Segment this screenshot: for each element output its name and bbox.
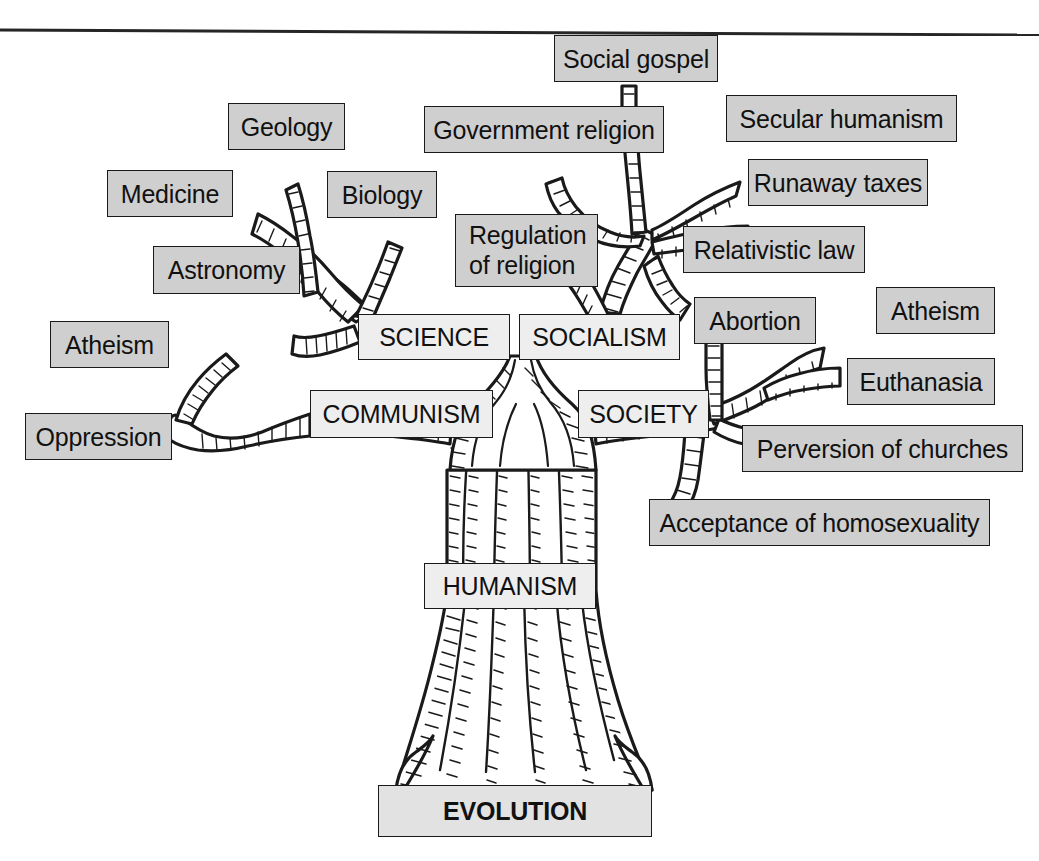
root-label-evolution[interactable]: EVOLUTION bbox=[378, 785, 652, 837]
leaf-label-secular-humanism[interactable]: Secular humanism bbox=[726, 95, 957, 142]
leaf-label-acceptance-of-homosexuality[interactable]: Acceptance of homosexuality bbox=[649, 499, 990, 546]
leaf-label-government-religion[interactable]: Government religion bbox=[424, 106, 664, 153]
branch-label-communism[interactable]: COMMUNISM bbox=[310, 390, 493, 438]
figure-canvas: Geology Medicine Biology Astronomy Socia… bbox=[0, 0, 1039, 861]
leaf-label-regulation-of-religion[interactable]: Regulation of religion bbox=[455, 214, 598, 287]
leaf-label-medicine[interactable]: Medicine bbox=[107, 170, 233, 217]
leaf-label-astronomy[interactable]: Astronomy bbox=[153, 246, 300, 294]
trunk-label-humanism[interactable]: HUMANISM bbox=[424, 563, 596, 609]
leaf-label-euthanasia[interactable]: Euthanasia bbox=[847, 358, 995, 405]
branch-label-socialism[interactable]: SOCIALISM bbox=[519, 314, 680, 360]
branch-label-society[interactable]: SOCIETY bbox=[578, 390, 709, 438]
leaf-label-biology[interactable]: Biology bbox=[327, 171, 437, 218]
leaf-label-runaway-taxes[interactable]: Runaway taxes bbox=[748, 159, 928, 206]
leaf-label-atheism-communism[interactable]: Atheism bbox=[50, 321, 169, 368]
leaf-label-geology[interactable]: Geology bbox=[228, 103, 345, 150]
leaf-label-perversion-of-churches[interactable]: Perversion of churches bbox=[742, 425, 1023, 472]
leaf-label-oppression[interactable]: Oppression bbox=[25, 413, 172, 460]
branch-label-science[interactable]: SCIENCE bbox=[358, 314, 510, 360]
leaf-label-atheism-society[interactable]: Atheism bbox=[876, 287, 995, 334]
leaf-label-social-gospel[interactable]: Social gospel bbox=[554, 35, 718, 82]
leaf-label-relativistic-law[interactable]: Relativistic law bbox=[683, 226, 865, 273]
leaf-label-abortion[interactable]: Abortion bbox=[694, 297, 816, 344]
